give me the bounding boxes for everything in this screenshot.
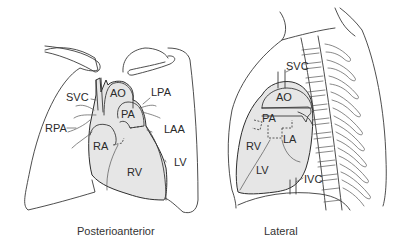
diaphragm xyxy=(238,193,350,210)
back-outline xyxy=(340,8,386,206)
label-la-lateral: LA xyxy=(283,133,297,145)
label-pa: PA xyxy=(121,108,136,120)
label-ao-lateral: AO xyxy=(276,91,292,103)
label-laa: LAA xyxy=(164,123,185,135)
label-rpa: RPA xyxy=(45,122,67,134)
label-lv: LV xyxy=(174,156,187,168)
label-lv-lateral: LV xyxy=(256,164,269,176)
label-rv-lateral: RV xyxy=(246,140,262,152)
label-lpa: LPA xyxy=(151,86,172,98)
label-pa-lateral: PA xyxy=(262,112,277,124)
right-clavicle xyxy=(45,46,100,72)
left-lung-apex xyxy=(123,48,168,72)
caption-posterioanterior: Posterioanterior xyxy=(77,225,155,237)
label-ao: AO xyxy=(110,87,126,99)
lateral-panel: SVC AO PA LA RV LV IVC Lateral xyxy=(228,8,386,237)
anterior-chest-line xyxy=(282,28,335,40)
label-ra: RA xyxy=(93,140,109,152)
label-rv: RV xyxy=(127,166,143,178)
left-clavicle xyxy=(128,56,175,75)
caption-lateral: Lateral xyxy=(264,225,298,237)
posterioanterior-panel: SVC AO LPA PA RPA LAA RA LV RV Posterioa… xyxy=(25,46,198,237)
label-svc-lateral: SVC xyxy=(286,60,309,72)
label-svc: SVC xyxy=(66,91,89,103)
heart-anatomy-diagram: SVC AO LPA PA RPA LAA RA LV RV Posterioa… xyxy=(0,0,395,246)
label-ivc-lateral: IVC xyxy=(304,173,322,185)
